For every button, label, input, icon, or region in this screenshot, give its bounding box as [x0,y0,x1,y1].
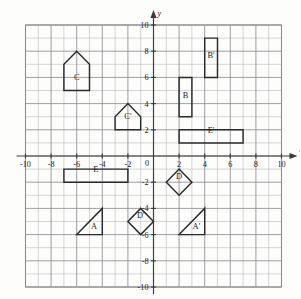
svg-text:8: 8 [144,47,148,56]
svg-text:10: 10 [140,21,148,30]
shape-label-d-prime: D' [137,211,145,220]
shape-label-c-prime: C' [124,112,132,121]
shape-label-b: B [183,91,189,100]
shape-label-a-prime: A' [193,222,201,231]
svg-text:x: x [299,145,301,154]
svg-text:6: 6 [144,73,148,82]
svg-text:-2: -2 [142,178,149,187]
shape-label-e: E [93,165,98,174]
shape-label-d: D [176,172,182,181]
svg-text:4: 4 [203,160,207,169]
coordinate-plane-figure: -10-8-6-4-20246810108642-2-4-6-8-10 xy A… [0,0,300,299]
svg-text:-6: -6 [73,160,80,169]
svg-text:-10: -10 [20,160,31,169]
coordinate-plane-svg: -10-8-6-4-20246810108642-2-4-6-8-10 xy A… [0,0,300,299]
svg-text:6: 6 [228,160,232,169]
shape-label-a: A [91,222,97,231]
svg-text:2: 2 [177,160,181,169]
svg-text:-8: -8 [142,257,149,266]
svg-text:4: 4 [144,100,148,109]
svg-text:-8: -8 [48,160,55,169]
shape-label-e-prime: E' [208,126,215,135]
svg-text:-4: -4 [99,160,106,169]
axes [17,10,298,294]
svg-text:-2: -2 [124,160,131,169]
svg-text:8: 8 [254,160,258,169]
svg-text:-10: -10 [138,283,149,292]
svg-text:10: 10 [277,160,285,169]
svg-text:0: 0 [145,159,149,168]
shape-label-c: C [74,73,80,82]
svg-text:y: y [157,9,162,18]
shape-label-b-prime: B' [208,51,216,60]
svg-text:2: 2 [144,126,148,135]
axis-names: xy [157,9,301,154]
